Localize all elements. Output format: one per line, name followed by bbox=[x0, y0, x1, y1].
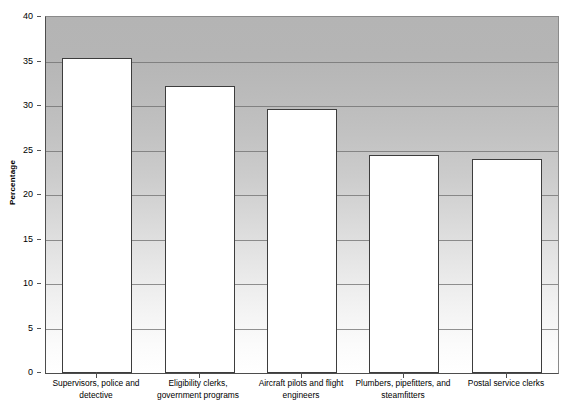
y-tick-label: 40 bbox=[23, 12, 33, 21]
x-axis-label: Aircraft pilots and flightengineers bbox=[250, 378, 352, 401]
x-axis-label-line: Eligibility clerks, bbox=[147, 378, 249, 390]
y-tick-mark bbox=[37, 372, 41, 373]
y-tick-label: 15 bbox=[23, 234, 33, 243]
y-tick-mark bbox=[37, 16, 41, 17]
y-tick-mark bbox=[37, 239, 41, 240]
x-axis-label: Plumbers, pipefitters, andsteamfitters bbox=[352, 378, 454, 401]
x-axis-label: Eligibility clerks,government programs bbox=[147, 378, 249, 401]
x-axis-label-line: detective bbox=[45, 390, 147, 402]
y-tick-label: 5 bbox=[28, 323, 33, 332]
x-axis-label-line: engineers bbox=[250, 390, 352, 402]
y-tick-mark bbox=[37, 283, 41, 284]
y-tick-label: 25 bbox=[23, 145, 33, 154]
bar bbox=[267, 109, 337, 373]
x-axis-label-line: Aircraft pilots and flight bbox=[250, 378, 352, 390]
x-axis-label-line: government programs bbox=[147, 390, 249, 402]
y-tick-mark bbox=[37, 150, 41, 151]
x-axis-label-line: Supervisors, police and bbox=[45, 378, 147, 390]
plot-area bbox=[45, 16, 559, 374]
x-axis-label-line: steamfitters bbox=[352, 390, 454, 402]
bar bbox=[472, 159, 542, 373]
y-tick-mark bbox=[37, 61, 41, 62]
bar bbox=[62, 58, 132, 373]
y-tick-mark bbox=[37, 328, 41, 329]
bar bbox=[165, 86, 235, 373]
bar-chart: Percentage 0510152025303540 Supervisors,… bbox=[0, 0, 563, 413]
bar bbox=[369, 155, 439, 373]
y-tick-label: 10 bbox=[23, 279, 33, 288]
y-tick-label: 20 bbox=[23, 190, 33, 199]
x-axis-label-line: Plumbers, pipefitters, and bbox=[352, 378, 454, 390]
y-axis-ticks: 0510152025303540 bbox=[0, 0, 41, 413]
x-axis-label: Postal service clerks bbox=[455, 378, 557, 390]
y-tick-mark bbox=[37, 105, 41, 106]
y-tick-label: 0 bbox=[28, 368, 33, 377]
y-tick-mark bbox=[37, 194, 41, 195]
x-axis-labels: Supervisors, police anddetectiveEligibil… bbox=[45, 378, 557, 412]
y-tick-label: 30 bbox=[23, 101, 33, 110]
x-axis-label-line: Postal service clerks bbox=[455, 378, 557, 390]
x-axis-label: Supervisors, police anddetective bbox=[45, 378, 147, 401]
y-tick-label: 35 bbox=[23, 56, 33, 65]
